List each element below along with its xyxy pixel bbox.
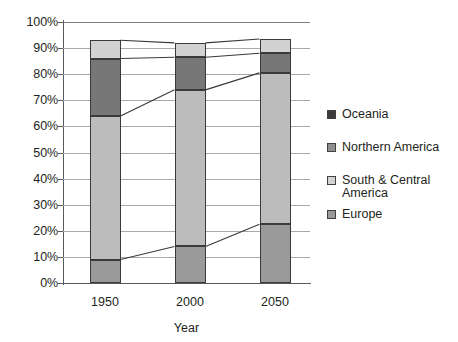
bar-segment-oceania[interactable] <box>175 43 206 57</box>
bar-segment-europe[interactable] <box>175 246 206 283</box>
y-tick-mark <box>58 153 63 154</box>
y-tick-label: 80% <box>33 68 58 81</box>
y-tick-mark <box>58 205 63 206</box>
gridline <box>63 283 310 284</box>
y-tick-label: 10% <box>33 251 58 264</box>
y-tick-mark <box>58 22 63 23</box>
legend-swatch-europe <box>327 210 336 219</box>
y-tick-label: 70% <box>33 94 58 107</box>
y-tick-mark <box>58 257 63 258</box>
plot-area <box>63 22 310 283</box>
y-tick-label: 60% <box>33 120 58 133</box>
y-tick-label: 90% <box>33 42 58 55</box>
y-tick-mark <box>58 74 63 75</box>
legend-item-oceania[interactable]: Oceania <box>327 108 389 121</box>
bar-segment-northern-america[interactable] <box>260 53 291 73</box>
x-tick-label-2000: 2000 <box>155 296 225 309</box>
y-tick-mark <box>58 126 63 127</box>
legend-item-south-central-america[interactable]: South & Central America <box>327 174 454 200</box>
bar-segment-europe[interactable] <box>260 224 291 283</box>
y-tick-label: 0% <box>40 277 58 290</box>
connector-europe <box>206 224 260 246</box>
bar-2050[interactable] <box>260 22 291 283</box>
y-tick-label: 100% <box>26 16 58 29</box>
bar-segment-south-central-america[interactable] <box>260 73 291 224</box>
x-tick-label-2050: 2050 <box>240 296 310 309</box>
y-tick-mark <box>58 100 63 101</box>
legend-label-europe: Europe <box>342 208 382 221</box>
legend-item-europe[interactable]: Europe <box>327 208 382 221</box>
bar-segment-oceania[interactable] <box>90 40 121 58</box>
connector-oceania <box>206 39 260 43</box>
y-axis-tick-labels: 100%90%80%70%60%50%40%30%20%10%0% <box>0 0 58 342</box>
bar-segment-northern-america[interactable] <box>175 57 206 90</box>
x-tick-label-1950: 1950 <box>70 296 140 309</box>
y-tick-mark <box>58 48 63 49</box>
connector-south-central-america <box>206 73 260 90</box>
bar-segment-northern-america[interactable] <box>90 59 121 116</box>
x-axis-title: Year <box>63 322 310 335</box>
y-tick-mark <box>58 179 63 180</box>
connector-south-central-america <box>121 90 175 116</box>
bar-segment-south-central-america[interactable] <box>90 116 121 260</box>
legend-label-oceania: Oceania <box>342 108 389 121</box>
legend-swatch-northern-america <box>327 143 336 152</box>
bar-segment-europe[interactable] <box>90 260 121 283</box>
bar-1950[interactable] <box>90 22 121 283</box>
y-tick-label: 40% <box>33 173 58 186</box>
legend-label-northern-america: Northern America <box>342 141 439 154</box>
chart-container: 100%90%80%70%60%50%40%30%20%10%0% 195020… <box>0 0 458 342</box>
bar-2000[interactable] <box>175 22 206 283</box>
legend-swatch-oceania <box>327 110 336 119</box>
connector-northern-america <box>206 53 260 57</box>
y-tick-label: 20% <box>33 225 58 238</box>
connector-oceania <box>121 40 175 43</box>
bar-segment-south-central-america[interactable] <box>175 90 206 247</box>
y-tick-label: 50% <box>33 147 58 160</box>
legend-swatch-south-central-america <box>327 176 336 185</box>
legend-item-northern-america[interactable]: Northern America <box>327 141 439 154</box>
legend-label-south-central-america: South & Central America <box>342 174 454 200</box>
connector-northern-america <box>121 57 175 58</box>
y-tick-label: 30% <box>33 199 58 212</box>
y-tick-mark <box>58 283 63 284</box>
y-tick-mark <box>58 231 63 232</box>
bar-segment-oceania[interactable] <box>260 39 291 53</box>
